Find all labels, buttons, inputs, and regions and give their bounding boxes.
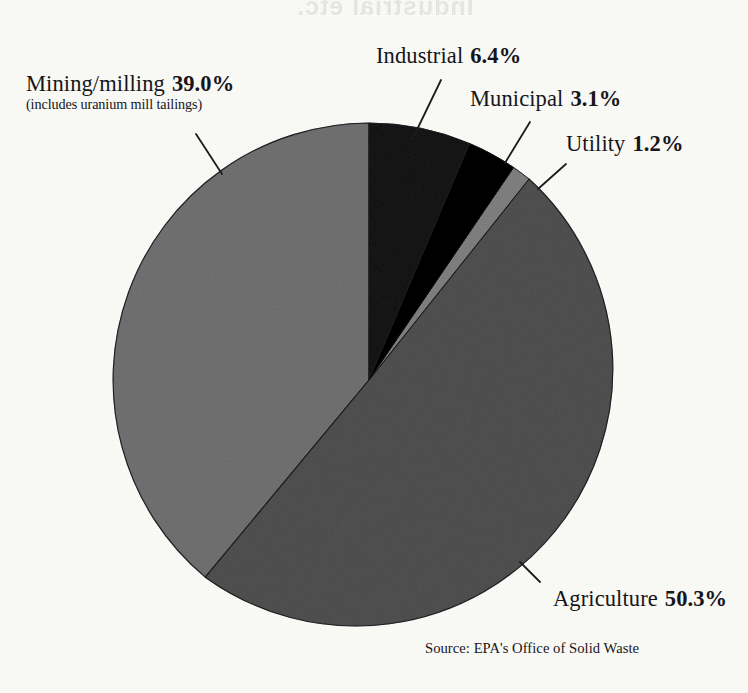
slice-label-municipal-percent: 3.1%	[570, 86, 621, 111]
slice-label-mining-subtitle: (includes uranium mill tailings)	[26, 97, 234, 112]
slice-label-utility-percent: 1.2%	[632, 131, 683, 156]
slice-label-industrial-name: Industrial	[376, 43, 463, 68]
slice-label-industrial-percent: 6.4%	[470, 43, 521, 68]
slice-label-municipal: Municipal3.1%	[470, 87, 621, 111]
chart-area: Mining/milling39.0% (includes uranium mi…	[0, 0, 748, 693]
slice-label-agriculture: Agriculture50.3%	[553, 587, 727, 611]
source-note: Source: EPA's Office of Solid Waste	[425, 640, 639, 657]
pie-chart-figure: Industrial etc.	[0, 0, 748, 693]
slice-label-industrial: Industrial6.4%	[376, 44, 521, 68]
slice-label-agriculture-name: Agriculture	[553, 586, 658, 611]
leader-line-utility	[538, 164, 566, 189]
slice-label-mining-percent: 39.0%	[172, 71, 234, 96]
slice-label-mining: Mining/milling39.0% (includes uranium mi…	[26, 72, 234, 112]
slice-label-utility: Utility1.2%	[566, 132, 684, 156]
slice-label-municipal-name: Municipal	[470, 86, 563, 111]
slice-label-agriculture-percent: 50.3%	[665, 586, 727, 611]
leader-line-municipal	[505, 122, 530, 163]
leader-line-mining	[196, 134, 222, 174]
slice-label-utility-name: Utility	[566, 131, 625, 156]
slice-label-mining-name: Mining/milling	[26, 71, 165, 96]
leader-line-agriculture	[520, 562, 540, 582]
